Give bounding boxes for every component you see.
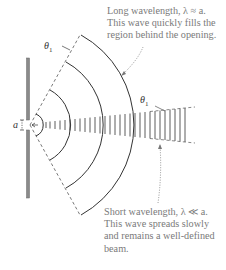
caption-line: This wave quickly fills the: [107, 17, 216, 29]
long-wavelength-caption: Long wavelength, λ ≈ a. This wave quickl…: [107, 5, 216, 42]
caption-line: This wave spreads slowly: [104, 218, 215, 230]
caption-line: beam.: [104, 243, 215, 255]
theta-label-short: θ1: [140, 94, 148, 108]
slit-barrier-icon: [27, 58, 30, 198]
leader-arrowheads: [121, 71, 162, 149]
plane-wave-beam-icon: [46, 108, 185, 142]
caption-line: Short wavelength, λ ≪ a.: [104, 206, 215, 218]
beam-edge-lines: [150, 106, 195, 143]
slit-width-indicator: [20, 120, 38, 130]
slit-width-label: a: [13, 119, 18, 130]
caption-line: Long wavelength, λ ≈ a.: [107, 5, 216, 17]
caption-line: region behind the opening.: [107, 29, 216, 41]
short-wavelength-caption: Short wavelength, λ ≪ a. This wave sprea…: [104, 206, 215, 255]
theta-label-long: θ1: [44, 40, 52, 54]
caption-line: and remains a well-defined: [104, 230, 215, 242]
